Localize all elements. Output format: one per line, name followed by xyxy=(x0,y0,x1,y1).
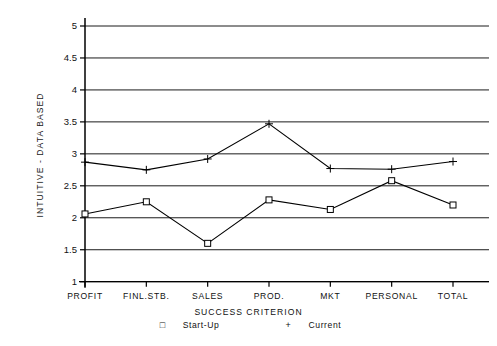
series-line-current xyxy=(85,124,453,170)
data-point-square xyxy=(82,211,88,217)
data-point-square xyxy=(389,178,395,184)
x-axis-title: SUCCESS CRITERION xyxy=(0,307,497,317)
data-point-square xyxy=(450,202,456,208)
series-line-start-up xyxy=(85,181,453,244)
chart-legend: □ Start-Up + Current xyxy=(0,320,497,330)
legend-label-startup: Start-Up xyxy=(183,320,220,330)
square-marker-icon: □ xyxy=(156,320,170,330)
data-point-square xyxy=(266,197,272,203)
legend-item-current: + Current xyxy=(281,320,341,330)
plus-marker-icon: + xyxy=(281,320,295,330)
legend-item-startup: □ Start-Up xyxy=(156,320,220,330)
legend-label-current: Current xyxy=(308,320,341,330)
data-point-square xyxy=(327,206,333,212)
data-point-square xyxy=(143,199,149,205)
x-tick-label: TOTAL xyxy=(408,291,497,301)
data-point-square xyxy=(205,240,211,246)
chart-figure: INTUITIVE - DATA BASED 11.522.533.544.55… xyxy=(0,0,497,346)
